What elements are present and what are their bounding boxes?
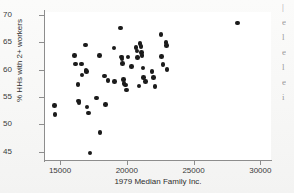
margin-text-fragment: | xyxy=(282,0,294,15)
x-tick-mark xyxy=(60,161,61,165)
margin-text-fragment: e xyxy=(282,15,294,30)
y-tick-label: 55 xyxy=(0,93,12,101)
page-margin-text: |elelei xyxy=(281,0,294,193)
data-point xyxy=(77,100,82,105)
x-axis-title: 1979 Median Family Inc. xyxy=(44,177,272,186)
data-point xyxy=(72,53,77,58)
data-point xyxy=(161,62,166,67)
data-point xyxy=(143,79,148,84)
y-tick-mark xyxy=(39,97,44,98)
data-point xyxy=(120,61,125,66)
data-point xyxy=(52,103,57,108)
data-point xyxy=(159,32,164,37)
margin-text-fragment: i xyxy=(282,90,294,105)
data-point xyxy=(159,54,164,59)
x-tick-label: 20000 xyxy=(107,166,147,175)
y-tick-mark xyxy=(39,15,44,16)
y-tick-label: 45 xyxy=(0,148,12,156)
data-point xyxy=(140,53,145,58)
x-tick-label: 25000 xyxy=(174,166,214,175)
y-tick-label: 50 xyxy=(0,120,12,128)
data-point xyxy=(164,43,169,48)
data-point xyxy=(129,64,134,69)
y-tick-mark xyxy=(39,42,44,43)
scanned-page: 455055606570 15000200002500030000 % HHs … xyxy=(0,0,294,193)
x-tick-label: 15000 xyxy=(40,166,80,175)
data-point xyxy=(79,62,84,67)
y-tick-label: 60 xyxy=(0,66,12,74)
data-point xyxy=(139,44,144,49)
margin-text-fragment: l xyxy=(282,60,294,75)
data-point xyxy=(84,69,89,74)
x-tick-label: 30000 xyxy=(240,166,280,175)
x-tick-mark xyxy=(127,161,128,165)
data-point xyxy=(83,43,88,48)
y-tick-mark xyxy=(39,124,44,125)
data-point xyxy=(151,75,156,80)
data-point xyxy=(235,21,240,26)
margin-text-fragment: e xyxy=(282,75,294,90)
data-point xyxy=(153,84,158,89)
data-point xyxy=(165,67,170,72)
data-point xyxy=(76,82,81,87)
x-tick-mark xyxy=(194,161,195,165)
data-point xyxy=(97,53,102,58)
margin-text-fragment: l xyxy=(282,30,294,45)
y-axis-title: % HHs with 2+ workers xyxy=(15,1,24,121)
y-tick-label: 65 xyxy=(0,38,12,46)
y-tick-mark xyxy=(39,70,44,71)
y-tick-label: 70 xyxy=(0,11,12,19)
data-point xyxy=(124,88,129,93)
data-point xyxy=(103,102,108,107)
data-point xyxy=(53,112,58,117)
y-axis-line xyxy=(44,10,45,162)
margin-text-fragment: e xyxy=(282,45,294,60)
scatter-plot-figure: 455055606570 15000200002500030000 % HHs … xyxy=(6,4,280,188)
y-tick-mark xyxy=(39,152,44,153)
data-point xyxy=(86,111,91,116)
data-point xyxy=(112,79,117,84)
x-axis-line xyxy=(44,160,272,161)
x-tick-mark xyxy=(260,161,261,165)
data-point xyxy=(123,83,128,88)
